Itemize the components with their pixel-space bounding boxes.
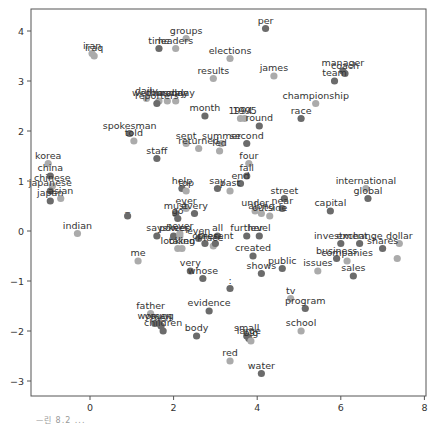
data-point [258, 270, 265, 277]
point-label: children [144, 317, 182, 328]
point-label: go [172, 205, 184, 216]
y-tick-label: 1 [18, 176, 24, 187]
y-tick-label: −2 [10, 326, 24, 337]
point-label: championship [282, 90, 348, 101]
point-label: : [228, 275, 231, 286]
data-point [258, 370, 265, 377]
data-point [47, 197, 54, 204]
data-point [364, 195, 371, 202]
y-axis: −3−2−101234 [10, 26, 31, 387]
data-point [153, 155, 160, 162]
data-point [216, 147, 223, 154]
data-point [153, 100, 160, 107]
point-label: told [125, 127, 143, 138]
data-point [155, 45, 162, 52]
data-point [201, 112, 208, 119]
data-point [91, 52, 98, 59]
point-label: time [148, 35, 170, 46]
data-point [331, 77, 338, 84]
point-label: taken [169, 235, 196, 246]
point-label: issues [303, 257, 332, 268]
point-label: indian [63, 220, 92, 231]
data-point [270, 72, 277, 79]
point-label: big [244, 327, 259, 338]
data-point [210, 75, 217, 82]
data-point [302, 305, 309, 312]
data-point [153, 232, 160, 239]
point-label: public [268, 255, 297, 266]
x-tick-label: 2 [171, 402, 177, 413]
point-label: evidence [188, 297, 231, 308]
figure-caption: ᅳ린 8.2 ... [36, 414, 85, 425]
point-label: round [245, 112, 273, 123]
data-point [256, 232, 263, 239]
y-tick-label: 0 [18, 226, 24, 237]
data-point [206, 307, 213, 314]
point-label: whose [188, 265, 219, 276]
data-point [191, 210, 198, 217]
x-axis: 02468 [87, 396, 427, 413]
point-label: japan [36, 187, 63, 198]
point-label: korea [35, 150, 61, 161]
data-point [243, 232, 250, 239]
data-point [394, 255, 401, 262]
point-label: present [197, 230, 233, 241]
point-label: program [285, 295, 326, 306]
data-point [199, 275, 206, 282]
point-label: sales [341, 262, 365, 273]
data-point [160, 327, 167, 334]
data-point [226, 55, 233, 62]
point-label: elections [209, 45, 252, 56]
y-tick-label: 2 [18, 126, 24, 137]
data-point [262, 25, 269, 32]
y-tick-label: 3 [18, 76, 24, 87]
point-label: led [212, 137, 227, 148]
data-point [312, 100, 319, 107]
data-point [193, 332, 200, 339]
data-point [379, 245, 386, 252]
point-label: past [220, 177, 241, 188]
point-label: global [353, 185, 382, 196]
point-label: iraq [85, 42, 103, 53]
point-label: school [286, 317, 316, 328]
data-point [134, 257, 141, 264]
data-point [124, 212, 131, 219]
data-point [178, 245, 185, 252]
y-tick-label: 4 [18, 26, 24, 37]
y-tick-label: −3 [10, 376, 24, 387]
point-label: _ [124, 202, 130, 213]
point-label: team [322, 67, 347, 78]
point-label: me [131, 247, 146, 258]
data-point [350, 272, 357, 279]
data-point [247, 337, 254, 344]
x-tick-label: 6 [338, 402, 344, 413]
point-label: per [258, 15, 274, 26]
point-label: water [248, 360, 275, 371]
point-label: results [197, 65, 229, 76]
point-label: level [248, 222, 271, 233]
data-point [243, 140, 250, 147]
point-label: second [230, 130, 264, 141]
x-tick-label: 8 [421, 402, 427, 413]
point-label: race [291, 105, 312, 116]
point-label: created [235, 242, 271, 253]
point-label: outside [252, 202, 287, 213]
data-point [266, 212, 273, 219]
data-point [172, 45, 179, 52]
point-label: shares [367, 235, 398, 246]
point-label: body [185, 322, 209, 333]
point-label: month [190, 102, 221, 113]
data-point [279, 265, 286, 272]
data-point [297, 115, 304, 122]
y-tick-label: −1 [10, 276, 24, 287]
point-label: reporters [135, 90, 179, 101]
point-label: red [222, 347, 238, 358]
data-point [297, 327, 304, 334]
point-label: four [239, 150, 258, 161]
point-label: capital [314, 197, 346, 208]
plot-area: pergroupsleaderstimeiraniraqelectionsres… [28, 9, 426, 396]
data-point [130, 137, 137, 144]
point-label: james [259, 62, 289, 73]
data-point [314, 267, 321, 274]
data-point [226, 357, 233, 364]
